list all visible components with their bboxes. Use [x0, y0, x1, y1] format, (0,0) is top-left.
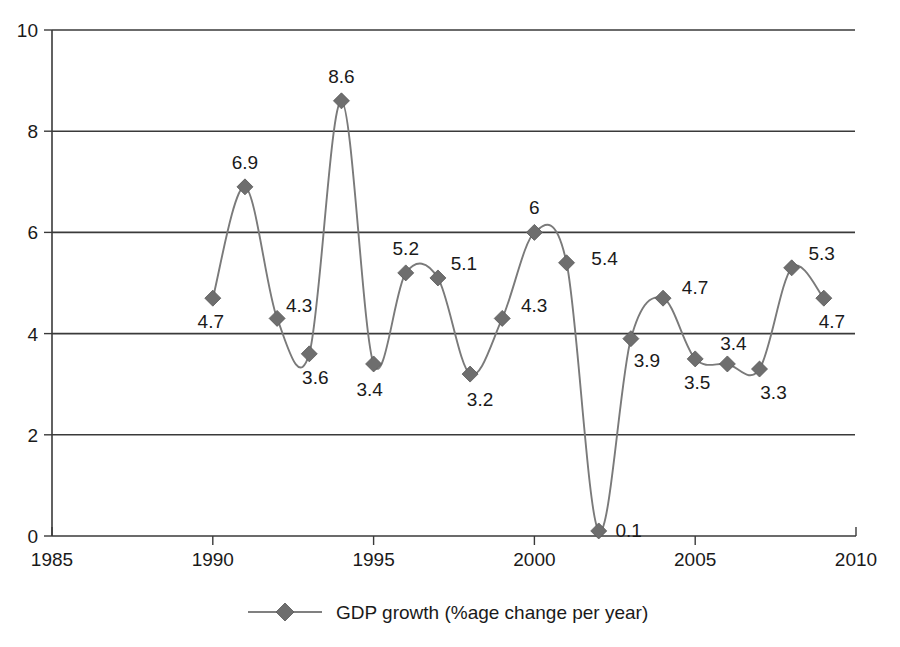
data-point-label: 5.3: [808, 243, 834, 264]
chart-container: 0246810 198519901995200020052010 4.76.94…: [0, 0, 900, 647]
data-point-label: 3.2: [467, 389, 493, 410]
data-point-label: 4.7: [682, 277, 708, 298]
data-point-label: 3.6: [302, 367, 328, 388]
series-group: 4.76.94.33.68.63.45.25.13.24.365.40.13.9…: [198, 66, 845, 541]
data-point-marker: [687, 351, 703, 367]
x-axis-tick-label: 2005: [674, 549, 716, 570]
x-axis-tick-label: 1995: [352, 549, 394, 570]
data-point-label: 3.9: [634, 350, 660, 371]
y-axis-tick-label: 2: [27, 425, 38, 446]
data-point-label: 0.1: [616, 520, 642, 541]
y-axis-tick-label: 6: [27, 222, 38, 243]
data-point-marker: [269, 310, 285, 326]
data-point-label: 5.1: [451, 253, 477, 274]
data-point-label: 6: [529, 197, 540, 218]
y-axis-tick-label: 0: [27, 526, 38, 547]
data-point-marker: [559, 255, 575, 271]
data-point-marker: [816, 290, 832, 306]
data-point-label: 5.4: [591, 248, 618, 269]
data-point-label: 8.6: [328, 66, 354, 87]
data-point-labels: 4.76.94.33.68.63.45.25.13.24.365.40.13.9…: [198, 66, 845, 541]
x-axis-tick-label: 2010: [835, 549, 877, 570]
data-point-label: 4.7: [819, 311, 845, 332]
data-point-label: 4.3: [286, 295, 312, 316]
x-axis-tick-label: 1990: [192, 549, 234, 570]
data-point-marker: [366, 356, 382, 372]
data-point-label: 3.3: [760, 382, 786, 403]
data-point-marker: [205, 290, 221, 306]
x-axis-tick-label: 2000: [513, 549, 555, 570]
data-point-label: 3.4: [720, 333, 747, 354]
data-point-marker: [301, 346, 317, 362]
data-point-marker: [462, 366, 478, 382]
y-axis-tick-label: 10: [17, 20, 38, 41]
x-axis-tick-label: 1985: [31, 549, 73, 570]
legend-label: GDP growth (%age change per year): [336, 602, 648, 623]
legend-diamond-icon: [276, 603, 294, 621]
legend: GDP growth (%age change per year): [248, 602, 648, 623]
data-point-label: 3.5: [684, 372, 710, 393]
data-point-marker: [784, 260, 800, 276]
data-point-label: 5.2: [393, 238, 419, 259]
y-axis-tick-label: 4: [27, 324, 38, 345]
data-point-label: 4.7: [198, 311, 224, 332]
gdp-growth-line-chart: 0246810 198519901995200020052010 4.76.94…: [0, 0, 900, 647]
x-axis-group: 198519901995200020052010: [31, 527, 877, 570]
data-point-label: 4.3: [521, 295, 547, 316]
data-point-marker: [494, 310, 510, 326]
data-point-label: 6.9: [232, 152, 258, 173]
data-point-label: 3.4: [356, 379, 383, 400]
data-point-marker: [430, 270, 446, 286]
data-point-marker: [333, 93, 349, 109]
y-axis-tick-label: 8: [27, 121, 38, 142]
gridlines-group: [52, 30, 855, 435]
data-point-marker: [719, 356, 735, 372]
y-axis-group: 0246810: [17, 20, 52, 547]
